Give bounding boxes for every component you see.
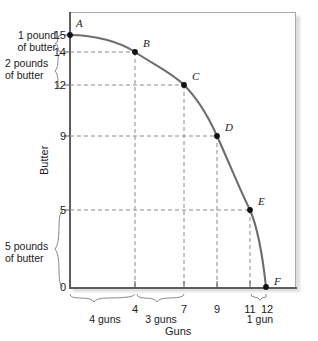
annotation-4-guns: 4 guns — [77, 313, 133, 325]
annotation-5-pounds-of-butter: 5 pounds of butter — [5, 240, 61, 264]
annotation-5-pounds-line1: 5 pounds — [5, 240, 61, 252]
ppf-curve — [70, 35, 266, 287]
brace-4-guns — [70, 294, 135, 302]
marker-C — [181, 82, 187, 88]
x-axis-title: Guns — [165, 325, 191, 337]
tick-marks — [64, 35, 250, 288]
data-point-markers — [67, 32, 269, 290]
annotation-2-pounds-of-butter: 2 pounds of butter — [5, 57, 61, 81]
annotation-5-pounds-line2: of butter — [5, 252, 61, 264]
point-label-B: B — [143, 37, 150, 49]
guide-lines — [70, 52, 250, 287]
annotation-3-guns: 3 guns — [133, 313, 189, 325]
brace-1-gun — [251, 294, 266, 301]
y-axis-title: Butter — [38, 146, 50, 175]
x-braces — [70, 294, 266, 302]
x-tick-9: 9 — [205, 303, 229, 315]
marker-F — [263, 284, 269, 290]
marker-D — [214, 133, 220, 139]
annotation-1-pound-line2: of butter — [0, 41, 56, 53]
point-label-E: E — [258, 195, 265, 207]
annotation-1-gun: 1 gun — [232, 313, 288, 325]
annotation-2-pounds-line2: of butter — [5, 69, 61, 81]
marker-B — [132, 49, 138, 55]
marker-A — [67, 32, 73, 38]
marker-E — [247, 207, 253, 213]
point-label-C: C — [192, 70, 199, 82]
brace-3-guns — [137, 294, 184, 302]
annotation-1-pound-line1: 1 pound — [0, 29, 56, 41]
annotation-2-pounds-line1: 2 pounds — [5, 57, 61, 69]
ppf-chart-figure: 15 14 12 9 5 0 4 7 9 11 12 A B C D E F 1… — [0, 0, 318, 341]
point-label-D: D — [225, 121, 233, 133]
point-label-F: F — [274, 275, 281, 287]
point-label-A: A — [76, 17, 83, 29]
annotation-1-pound-of-butter: 1 pound of butter — [0, 29, 56, 53]
